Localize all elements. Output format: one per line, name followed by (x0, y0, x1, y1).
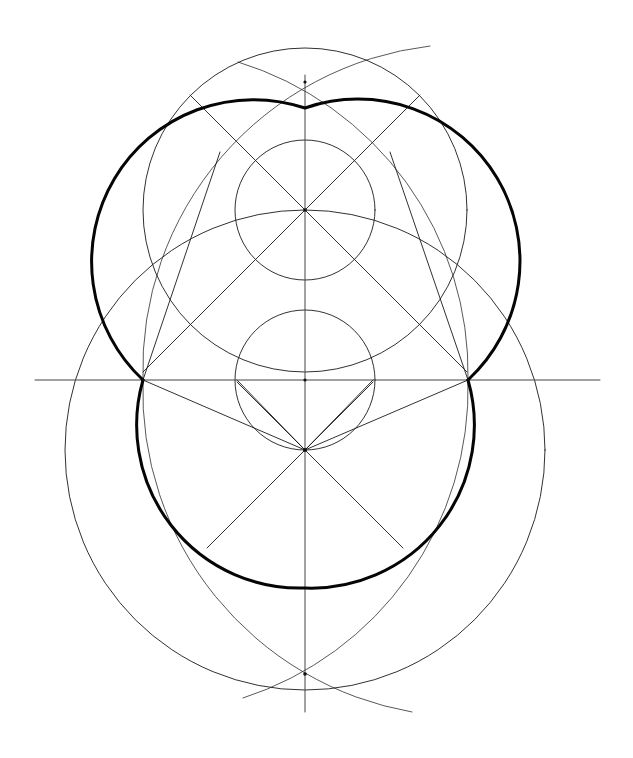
chord-upper-right (390, 152, 468, 380)
ray-lower-sw (207, 450, 305, 548)
construction-arc-top-left (143, 46, 430, 380)
node-arc-cross-bottom (303, 672, 307, 676)
construction-arc-bottom-right (243, 380, 468, 698)
ray-upper-se (305, 210, 467, 372)
chord-lower-left (237, 380, 305, 450)
node-center (303, 378, 306, 381)
ray-upper-sw (143, 210, 305, 372)
node-lower-center (303, 448, 307, 452)
egg-outline-upper-dome (92, 99, 520, 380)
drawing-canvas (0, 0, 633, 758)
diagonal-lower-to-right-waist (305, 380, 468, 450)
node-upper-center (303, 208, 307, 212)
ray-upper-ne (305, 95, 420, 210)
ray-upper-nw (190, 95, 305, 210)
chord-upper-left (143, 152, 220, 380)
ray-lower-se (305, 450, 403, 548)
chord-lower-right (305, 380, 373, 450)
node-right-waist (467, 379, 470, 382)
construction-arc-bottom-left (143, 380, 412, 712)
geometric-construction-figure (0, 0, 633, 758)
node-left-waist (142, 379, 145, 382)
construction-arc-top-right (238, 62, 468, 380)
node-arc-cross-top (303, 80, 306, 83)
diagonal-lower-to-left-waist (143, 380, 305, 450)
